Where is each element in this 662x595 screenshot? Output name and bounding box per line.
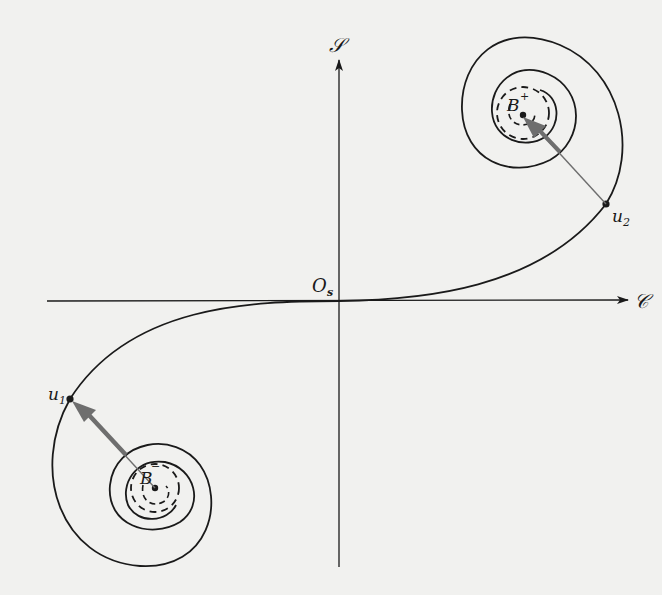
u1-label: u 1 bbox=[48, 384, 66, 407]
horizontal-axis-label: 𝒞 bbox=[634, 289, 654, 313]
svg-text:O: O bbox=[312, 275, 327, 296]
origin-label: O s bbox=[312, 275, 333, 299]
svg-text:u: u bbox=[48, 384, 59, 404]
svg-text:s: s bbox=[327, 286, 333, 299]
arrow-u2-to-b-plus bbox=[523, 117, 606, 204]
b-plus-label: B + bbox=[506, 90, 529, 115]
svg-text:1: 1 bbox=[59, 394, 66, 407]
trajectory-to-b-minus bbox=[52, 301, 339, 566]
svg-text:u: u bbox=[612, 206, 623, 226]
trajectory-to-b-plus bbox=[339, 37, 623, 301]
b-minus-label: B − bbox=[139, 460, 160, 488]
svg-text:−: − bbox=[151, 460, 160, 473]
svg-text:+: + bbox=[520, 90, 529, 103]
svg-text:B: B bbox=[506, 95, 520, 115]
b-plus-point bbox=[520, 112, 526, 118]
axes bbox=[47, 60, 628, 567]
u2-label: u 2 bbox=[612, 206, 630, 229]
svg-text:2: 2 bbox=[622, 216, 630, 229]
vertical-axis-label: 𝒮 bbox=[329, 33, 350, 57]
phase-portrait-diagram: 𝒮 𝒞 O s B + B − u 2 bbox=[0, 0, 662, 595]
